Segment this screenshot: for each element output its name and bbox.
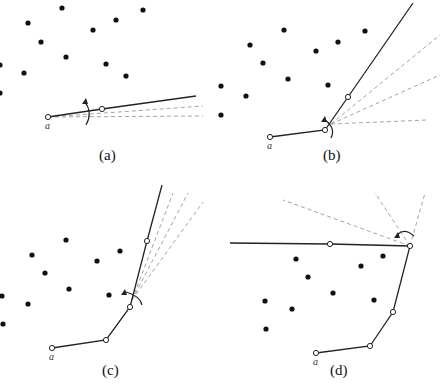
candidate-ray xyxy=(331,120,427,124)
candidate-ray xyxy=(283,200,410,246)
candidate-ray xyxy=(375,193,410,246)
hull-path xyxy=(48,96,196,117)
start-point-label: a xyxy=(49,351,54,362)
panel-d: a(d) xyxy=(230,193,425,379)
point-dot xyxy=(29,252,34,257)
hull-vertex xyxy=(407,243,412,248)
hull-vertex xyxy=(327,241,332,246)
candidate-ray xyxy=(132,202,203,300)
hull-vertex xyxy=(367,343,372,348)
arrowhead-icon xyxy=(321,116,327,122)
point-dot xyxy=(380,253,385,258)
panel-caption: (b) xyxy=(323,147,341,164)
point-dot xyxy=(25,20,30,25)
point-dot xyxy=(0,62,3,67)
panel-a: a(a) xyxy=(0,5,203,164)
point-dot xyxy=(289,306,294,311)
point-dot xyxy=(42,270,47,275)
hull-vertex xyxy=(49,345,54,350)
point-dot xyxy=(325,82,330,87)
hull-vertex xyxy=(345,94,350,99)
panel-c: a(c) xyxy=(0,185,203,379)
point-dot xyxy=(38,39,43,44)
hull-vertex xyxy=(99,106,104,111)
candidate-ray xyxy=(132,193,173,300)
point-dot xyxy=(113,17,118,22)
candidate-ray xyxy=(331,35,440,124)
hull-vertex xyxy=(45,114,50,119)
start-point-label: a xyxy=(45,120,50,131)
point-dot xyxy=(59,5,64,10)
point-dot xyxy=(0,90,3,95)
candidate-ray xyxy=(132,193,188,300)
point-dot xyxy=(243,93,248,98)
hull-vertex xyxy=(390,309,395,314)
panel-b: a(b) xyxy=(218,3,440,164)
point-dot xyxy=(305,274,310,279)
hull-vertex xyxy=(127,304,132,309)
candidate-ray xyxy=(410,193,425,246)
hull-vertex xyxy=(103,337,108,342)
hull-vertex xyxy=(322,127,327,132)
point-dot xyxy=(371,297,376,302)
start-point-label: a xyxy=(267,140,272,151)
point-dot xyxy=(293,256,298,261)
point-dot xyxy=(106,292,111,297)
point-dot xyxy=(21,70,26,75)
point-dot xyxy=(103,61,108,66)
hull-path xyxy=(270,3,413,137)
point-dot xyxy=(117,248,122,253)
hull-path xyxy=(52,185,162,348)
point-dot xyxy=(218,112,223,117)
point-dot xyxy=(262,298,267,303)
candidate-ray xyxy=(48,106,203,117)
point-dot xyxy=(218,83,223,88)
panel-caption: (d) xyxy=(330,362,348,379)
hull-vertex xyxy=(313,350,318,355)
hull-vertex xyxy=(267,134,272,139)
diagram-figure: a(a)a(b)a(c)a(d) xyxy=(0,0,441,386)
point-dot xyxy=(63,237,68,242)
point-dot xyxy=(362,28,367,33)
point-dot xyxy=(330,290,335,295)
point-dot xyxy=(63,54,68,59)
rotation-arc-icon xyxy=(85,102,89,125)
point-dot xyxy=(0,293,5,298)
point-dot xyxy=(0,321,5,326)
point-dot xyxy=(66,286,71,291)
point-dot xyxy=(123,73,128,78)
point-dot xyxy=(358,263,363,268)
point-dot xyxy=(90,27,95,32)
candidate-ray xyxy=(48,116,203,117)
point-dot xyxy=(25,301,30,306)
rotation-arc-icon xyxy=(398,231,414,236)
point-dot xyxy=(247,42,252,47)
point-dot xyxy=(263,326,268,331)
point-dot xyxy=(335,39,340,44)
arrowhead-icon xyxy=(82,98,88,104)
start-point-label: a xyxy=(313,356,318,367)
panel-caption: (a) xyxy=(99,147,116,164)
point-dot xyxy=(140,7,145,12)
point-dot xyxy=(260,60,265,65)
point-dot xyxy=(94,258,99,263)
hull-vertex xyxy=(144,238,149,243)
panels-group: a(a)a(b)a(c)a(d) xyxy=(0,3,440,379)
point-dot xyxy=(313,48,318,53)
hull-path xyxy=(230,243,410,353)
panel-caption: (c) xyxy=(102,362,119,379)
point-dot xyxy=(285,76,290,81)
point-dot xyxy=(281,27,286,32)
